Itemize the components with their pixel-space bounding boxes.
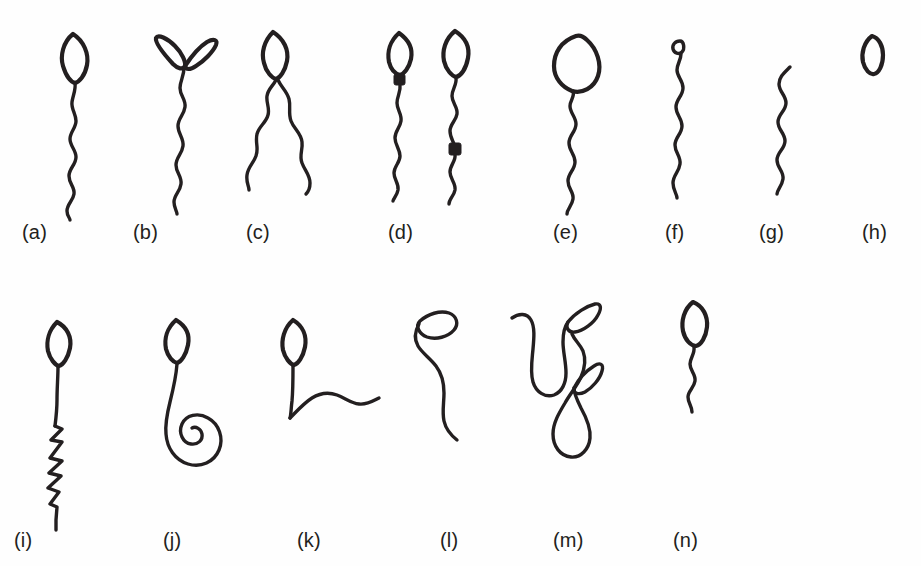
- panel-n-short-tail: [682, 302, 707, 412]
- panel-label-d: (d): [388, 221, 413, 244]
- panel-c-double-tail: [247, 32, 310, 194]
- panel-k-bent-tail: [282, 320, 379, 418]
- panel-label-e: (e): [553, 221, 578, 244]
- sperm-tail-d-right-lower: [449, 155, 455, 204]
- proximal-cytoplasmic-droplet-d: [394, 74, 405, 85]
- sperm-tail-e: [567, 91, 576, 214]
- panel-label-j: (j): [163, 529, 181, 552]
- sperm-tail-i-straight: [55, 366, 58, 426]
- sperm-tail-d-right-upper: [450, 78, 457, 144]
- sperm-tail-b: [174, 68, 185, 214]
- panel-d-cytoplasmic-droplets: [388, 31, 468, 204]
- panel-label-k: (k): [297, 529, 321, 552]
- panel-h-isolated-head: [862, 36, 883, 74]
- sperm-tail-a: [67, 83, 76, 220]
- panel-label-a: (a): [22, 221, 47, 244]
- panel-i-zigzag-tail: [47, 322, 70, 530]
- sperm-head-c: [263, 32, 288, 79]
- panel-b-double-head: [156, 36, 217, 214]
- sperm-tail-g-free: [777, 67, 790, 194]
- sperm-tail-k-bend: [290, 393, 379, 418]
- sperm-head-b-right: [185, 40, 217, 69]
- sperm-tail-m-right: [553, 334, 590, 457]
- panel-a-normal-sperm: [62, 34, 88, 220]
- sperm-tail-j-coil: [166, 364, 221, 465]
- sperm-head-a: [62, 34, 88, 83]
- sperm-head-d-left: [388, 33, 411, 75]
- sperm-head-m-upper: [567, 304, 600, 332]
- panel-label-i: (i): [14, 529, 32, 552]
- sperm-head-f-small: [673, 41, 684, 53]
- sperm-head-k: [282, 320, 305, 365]
- panel-label-b: (b): [133, 221, 158, 244]
- sperm-head-i: [47, 322, 70, 366]
- sperm-head-m-lower: [574, 364, 603, 394]
- panel-l-lateral-head: [415, 312, 457, 440]
- panel-label-l: (l): [440, 529, 458, 552]
- sperm-tail-m-left: [512, 314, 568, 395]
- panel-label-m: (m): [553, 529, 584, 552]
- sperm-tail-d-left: [393, 85, 401, 201]
- sperm-head-d-right: [443, 31, 468, 77]
- sperm-tail-n-short: [688, 347, 695, 412]
- sperm-tail-c-right: [278, 80, 310, 194]
- panel-g-headless-tail: [777, 67, 790, 194]
- sperm-head-e-large: [554, 36, 599, 92]
- sperm-head-h-isolated: [862, 36, 883, 74]
- panel-label-h: (h): [862, 221, 887, 244]
- sperm-tail-k-vertical: [290, 366, 293, 418]
- sperm-head-j: [165, 320, 188, 363]
- figure-drawing-canvas: [0, 0, 921, 566]
- panel-label-n: (n): [673, 529, 698, 552]
- sperm-tail-f: [673, 54, 683, 198]
- panel-label-f: (f): [665, 221, 684, 244]
- sperm-head-l-lateral: [418, 312, 457, 338]
- sperm-tail-l: [415, 324, 457, 440]
- sperm-tail-i-zigzag: [48, 426, 62, 530]
- panel-label-c: (c): [246, 221, 270, 244]
- sperm-morphology-figure: (a) (b) (c) (d) (e) (f) (g) (h) (i) (j) …: [0, 0, 921, 566]
- panel-label-g: (g): [759, 221, 784, 244]
- panel-f-microcephalic: [673, 41, 684, 198]
- sperm-head-n: [682, 302, 707, 346]
- panel-m-tail-around-head: [512, 304, 603, 457]
- sperm-tail-c-left: [247, 80, 276, 190]
- distal-cytoplasmic-droplet-d: [449, 143, 461, 155]
- sperm-head-b-left: [156, 36, 185, 68]
- panel-j-coiled-tail: [165, 320, 221, 465]
- panel-e-macrocephalic: [554, 36, 599, 214]
